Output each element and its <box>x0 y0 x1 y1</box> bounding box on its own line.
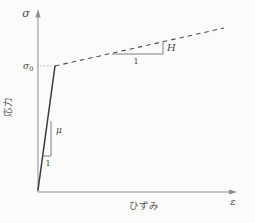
yield-stress-label: σ0 <box>23 61 33 73</box>
x-axis-arrowhead-icon <box>229 189 237 194</box>
y-axis-symbol-label: σ <box>22 7 30 20</box>
y-axis-arrowhead-icon <box>35 9 40 18</box>
hardening-slope-label: H <box>166 42 176 53</box>
yield-stress-label-subscript: 0 <box>29 65 33 73</box>
elastic-line <box>38 66 55 190</box>
elastic-slope-run-label: 1 <box>45 159 50 168</box>
hardening-dashed-line <box>55 28 224 66</box>
stress-strain-plot: σ ε 応力 ひずみ σ0 μ 1 H 1 <box>0 0 255 223</box>
stress-strain-figure: σ ε 応力 ひずみ σ0 μ 1 H 1 <box>0 0 255 223</box>
hardening-slope-run-label: 1 <box>133 57 138 66</box>
elastic-slope-label: μ <box>56 125 62 135</box>
x-axis-name-label: ひずみ <box>129 200 159 211</box>
x-axis-symbol-label: ε <box>230 196 235 207</box>
y-axis-name-label: 応力 <box>2 97 13 117</box>
